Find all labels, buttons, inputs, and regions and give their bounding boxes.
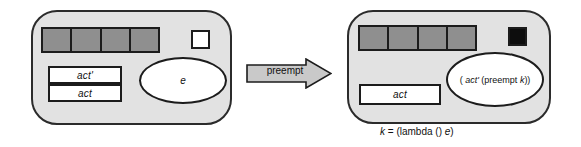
before-expression-bubble: e [139, 57, 227, 104]
caption-middle: = (lambda () [385, 126, 445, 137]
preempt-arrow-label: preempt [256, 65, 314, 76]
continuation-caption: k = (lambda () e) [380, 126, 520, 137]
before-act-box: act [48, 84, 122, 102]
queue-cell [72, 29, 101, 51]
queue-cell [389, 27, 418, 49]
after-expression-text: ( act' (preempt k)) [460, 75, 531, 85]
queue-cell [102, 29, 131, 51]
before-act-prime-box: act' [48, 66, 122, 84]
expr-act-prime: act' [465, 75, 479, 85]
expr-suffix: )) [524, 75, 530, 85]
caption-suffix: ) [450, 126, 453, 137]
expr-middle: (preempt [479, 75, 520, 85]
queue-cell [448, 27, 475, 49]
queue-cell [43, 29, 72, 51]
after-act-box: act [359, 84, 441, 105]
after-thread-queue [358, 25, 477, 51]
queue-cell [131, 29, 158, 51]
diagram-canvas: act' act e preempt act ( act' (preempt k… [0, 0, 581, 147]
before-current-slot-marker [191, 30, 210, 49]
before-thread-queue [41, 27, 160, 53]
queue-cell [419, 27, 448, 49]
after-expression-bubble: ( act' (preempt k)) [446, 52, 544, 107]
queue-cell [360, 27, 389, 49]
after-current-slot-marker [508, 27, 527, 46]
